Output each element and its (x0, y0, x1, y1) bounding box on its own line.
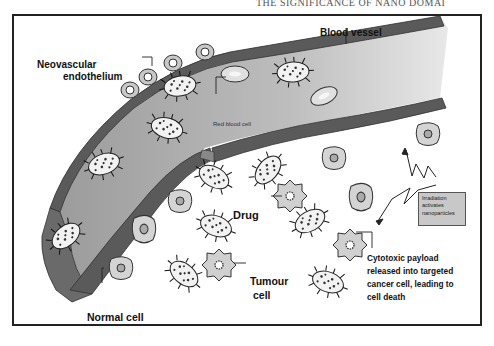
label-cytotoxic-payload: Cytotoxic payload released into targeted… (367, 252, 454, 304)
cytotoxic-line4: cell death (367, 291, 454, 304)
label-drug: Drug (233, 210, 259, 222)
label-blood-vessel: Blood vessel (320, 28, 382, 39)
label-tumour-line2: cell (253, 290, 271, 301)
label-neovascular-line1: Neovascular (37, 60, 96, 71)
label-normal-cell: Normal cell (87, 312, 144, 323)
cytotoxic-line2: released into targeted (367, 265, 454, 278)
irradiation-line3: nanoparticles (422, 210, 462, 217)
label-red-blood-cell: Red blood cell (213, 121, 251, 127)
irradiation-box: Irradiation activates nanoparticles (418, 192, 466, 226)
label-tumour-line1: Tumour (250, 276, 288, 287)
cytotoxic-line3: cancer cell, leading to (367, 278, 454, 291)
irradiation-line2: activates (422, 202, 462, 209)
label-neovascular-line2: endothelium (63, 72, 122, 83)
cytotoxic-line1: Cytotoxic payload (367, 252, 454, 265)
irradiation-line1: Irradiation (422, 195, 462, 202)
